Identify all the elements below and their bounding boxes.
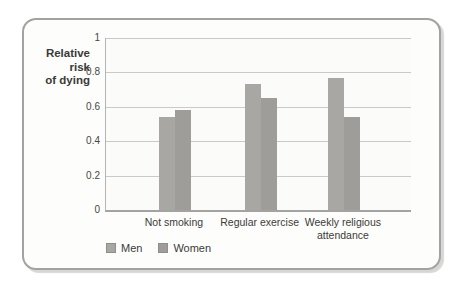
y-tick-label: 0: [66, 205, 100, 215]
y-tick-label: 0.8: [66, 67, 100, 77]
legend-item-men: Men: [106, 242, 142, 254]
bar-women: [344, 117, 360, 210]
women-swatch-icon: [158, 243, 168, 253]
bar-women: [261, 98, 277, 210]
y-axis-tick-labels: 00.20.40.60.81: [66, 38, 100, 210]
legend-label-women: Women: [173, 242, 211, 254]
x-axis-label: Weekly religious attendance: [284, 216, 402, 241]
bar-women: [175, 110, 191, 210]
y-tick-label: 0.2: [66, 171, 100, 181]
bar-men: [328, 78, 344, 210]
legend-item-women: Women: [158, 242, 211, 254]
legend: Men Women: [106, 242, 211, 254]
y-tick-label: 1: [66, 33, 100, 43]
y-tick-label: 0.4: [66, 136, 100, 146]
chart-card: Relative risk of dying 00.20.40.60.81 No…: [22, 18, 441, 270]
men-swatch-icon: [106, 243, 116, 253]
gridline: [106, 38, 411, 39]
y-tick-label: 0.6: [66, 102, 100, 112]
gridline: [106, 72, 411, 73]
legend-label-men: Men: [121, 242, 142, 254]
bar-men: [159, 117, 175, 210]
bar-men: [245, 84, 261, 210]
plot-area: [105, 38, 411, 212]
